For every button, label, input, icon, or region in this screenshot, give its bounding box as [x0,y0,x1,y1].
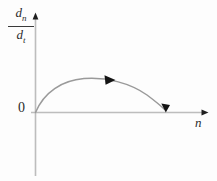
y-axis-label-denominator: dt [6,27,36,47]
trajectory-curve [36,78,165,112]
curve-direction-arrow-icon [105,75,116,84]
y-axis-label-numerator: dn [6,6,36,26]
denominator-subscript: t [23,34,26,44]
y-axis-label: dn dt [6,6,36,46]
figure-container: dn dt 0 n [0,0,217,181]
x-axis-arrow-icon [202,110,209,116]
origin-label: 0 [18,101,25,115]
numerator-subscript: n [22,13,27,23]
x-axis-label: n [195,116,202,129]
